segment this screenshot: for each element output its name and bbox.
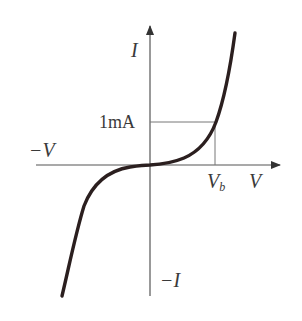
y-axis-label: I — [130, 39, 139, 61]
negative-y-axis-label: −I — [160, 269, 181, 291]
current-marker-label: 1mA — [99, 112, 135, 132]
negative-x-axis-label: −V — [29, 139, 57, 161]
iv-characteristic-diagram: I 1mA −V Vb V −I — [0, 0, 302, 321]
voltage-marker-label: Vb — [207, 170, 225, 194]
voltage-marker-subscript: b — [219, 180, 225, 194]
x-axis-label: V — [249, 170, 264, 192]
